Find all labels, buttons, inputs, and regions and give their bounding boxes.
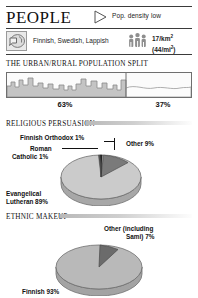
label-finnish-orthodox: Finnish Orthodox 1% [20, 134, 84, 142]
ethnic-heading-bar [60, 214, 192, 218]
density-imperial: (44/mi [152, 46, 171, 53]
urban-rural-graphic [7, 73, 191, 97]
speech-face-icon [6, 31, 27, 51]
density-metric: 17/km [152, 35, 170, 42]
top-divider [6, 6, 192, 7]
label-roman-catholic-line1: Roman [30, 145, 52, 153]
rolling-hills-icon [126, 87, 191, 97]
people-group-icon [128, 32, 147, 50]
label-ethnic-other-line2: Sami) 7% [126, 233, 154, 241]
religion-heading: RELIGIOUS PERSUASION [6, 120, 95, 128]
languages-label: Finnish, Swedish, Lappish [33, 37, 109, 44]
religion-heading-bar [86, 121, 192, 125]
label-ethnic-other-line1: Other (including [104, 225, 153, 233]
density-metric-exponent: 2 [170, 34, 173, 39]
density-imperial-close: ) [173, 46, 175, 53]
label-lutheran-line2: Lutheran 89% [6, 198, 48, 206]
people-infographic-page: PEOPLE Pop. density low Finnish, Swedish… [0, 0, 198, 298]
leader-line-orthodox-h [104, 141, 115, 142]
label-other-religion: Other 9% [126, 140, 154, 148]
facts-row: Finnish, Swedish, Lappish 17/km2 (44/mi2… [6, 31, 192, 53]
page-header: PEOPLE Pop. density low [6, 8, 192, 28]
header-divider [6, 28, 192, 29]
ethnic-pie-chart [55, 238, 143, 296]
triangle-right-icon [94, 10, 107, 24]
label-finnish: Finnish 93% [22, 288, 59, 296]
urban-rural-bar [6, 72, 192, 98]
header-subtitle: Pop. density low [112, 12, 161, 19]
label-roman-catholic-line2: Catholic 1% [12, 153, 48, 161]
label-lutheran-line1: Evangelical [6, 190, 41, 198]
population-density-value: 17/km2 (44/mi2) [152, 33, 176, 54]
rural-percentage: 37% [128, 100, 198, 109]
facts-divider [6, 54, 192, 55]
religion-pie-chart [60, 148, 142, 206]
urban-percentage: 63% [0, 100, 130, 109]
leader-line-catholic [62, 148, 98, 149]
page-title: PEOPLE [6, 8, 71, 27]
leader-line-orthodox [114, 138, 115, 150]
urban-rural-heading: THE URBAN/RURAL POPULATION SPLIT [6, 60, 148, 68]
ethnic-heading: ETHNIC MAKEUP [6, 213, 68, 221]
